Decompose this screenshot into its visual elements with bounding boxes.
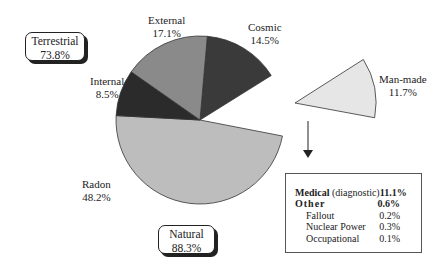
label-man-made: Man-made 11.7% (379, 73, 427, 99)
label-internal: Internal 8.5% (90, 75, 124, 101)
pie-slice-man-made (295, 59, 377, 118)
pie-slices (116, 36, 282, 204)
down-arrow (303, 121, 313, 158)
label-external: External 17.1% (148, 14, 185, 40)
callout-terrestrial: Terrestrial 73.8% (25, 32, 85, 61)
pie-slice-radon (116, 116, 282, 204)
callout-natural: Natural 88.3% (158, 225, 215, 254)
label-cosmic: Cosmic 14.5% (248, 21, 282, 47)
legend-row-fallout: Fallout 0.2% (295, 210, 400, 221)
legend-row-medical: Medical (diagnostic) 11.1% (295, 187, 400, 198)
label-radon: Radon 48.2% (82, 178, 111, 204)
pie-slice-cosmic (200, 36, 271, 120)
legend-row-nuclear-power: Nuclear Power 0.3% (295, 221, 400, 232)
man-made-breakdown-legend: Medical (diagnostic) 11.1% Other 0.6% Fa… (285, 173, 422, 253)
legend-row-occupational: Occupational 0.1% (295, 233, 400, 244)
legend-row-other: Other 0.6% (295, 198, 400, 209)
man-made-exploded-wedge (295, 59, 377, 118)
